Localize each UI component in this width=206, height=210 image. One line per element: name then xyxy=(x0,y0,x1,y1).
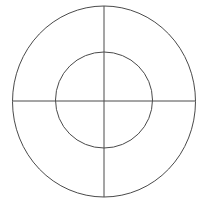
concentric-circle-diagram xyxy=(0,0,206,210)
figure-container xyxy=(0,0,206,210)
canvas-background xyxy=(0,0,206,210)
